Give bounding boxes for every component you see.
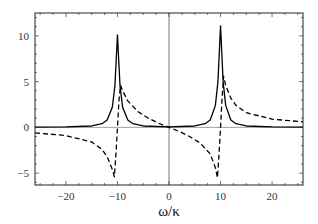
x-tick-label: 0 xyxy=(166,190,172,202)
chart: −20−1001020 −50510 ω/κ xyxy=(0,0,318,224)
y-tick-labels: −50510 xyxy=(17,30,29,179)
x-axis-title: ω/κ xyxy=(158,203,180,219)
x-tick-label: 20 xyxy=(267,190,279,202)
y-tick-label: 5 xyxy=(24,76,30,88)
x-tick-label: −10 xyxy=(109,190,127,202)
y-tick-label: 10 xyxy=(18,30,30,42)
y-tick-label: 0 xyxy=(24,121,30,133)
x-tick-label: 10 xyxy=(215,190,227,202)
x-tick-labels: −20−1001020 xyxy=(57,190,278,202)
y-tick-label: −5 xyxy=(17,167,29,179)
x-tick-label: −20 xyxy=(57,190,75,202)
reference-lines xyxy=(35,13,303,185)
